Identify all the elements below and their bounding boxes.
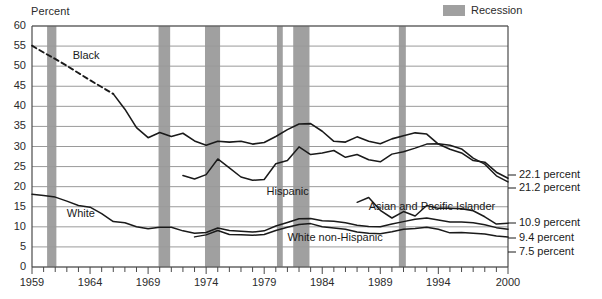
recession-swatch-icon bbox=[443, 5, 465, 16]
y-tick-label: 15 bbox=[2, 200, 26, 212]
series-label-white-non-hispanic: White non-Hispanic bbox=[287, 231, 382, 243]
series-label-hispanic: Hispanic bbox=[267, 185, 309, 197]
end-value-label-asian: 10.9 percent bbox=[519, 216, 580, 228]
y-tick-label: 20 bbox=[2, 180, 26, 192]
y-tick-label: 50 bbox=[2, 59, 26, 71]
x-tick-label: 1964 bbox=[68, 276, 112, 288]
x-tick-label: 1974 bbox=[184, 276, 228, 288]
y-tick-label: 40 bbox=[2, 99, 26, 111]
y-axis-title: Percent bbox=[31, 5, 70, 17]
y-tick-label: 30 bbox=[2, 140, 26, 152]
y-tick-label: 35 bbox=[2, 119, 26, 131]
y-tick-label: 0 bbox=[2, 260, 26, 272]
plot-area bbox=[0, 0, 602, 299]
x-tick-label: 1994 bbox=[416, 276, 460, 288]
legend: Recession bbox=[443, 4, 522, 16]
x-tick-label: 1989 bbox=[358, 276, 402, 288]
y-tick-label: 5 bbox=[2, 240, 26, 252]
legend-label-recession: Recession bbox=[471, 4, 522, 16]
y-tick-label: 45 bbox=[2, 79, 26, 91]
x-tick-label: 1959 bbox=[10, 276, 54, 288]
series-label-white: White bbox=[67, 207, 95, 219]
series-line-hispanic bbox=[183, 144, 508, 182]
x-tick-label: 2000 bbox=[486, 276, 530, 288]
series-label-black: Black bbox=[73, 49, 100, 61]
poverty-rate-line-chart: Percent Recession 0510152025303540455055… bbox=[0, 0, 602, 299]
x-tick-label: 1969 bbox=[126, 276, 170, 288]
gridlines bbox=[32, 26, 508, 267]
series-label-asian-and-pacific-islander: Asian and Pacific Islander bbox=[369, 200, 496, 212]
y-tick-label: 60 bbox=[2, 19, 26, 31]
x-tick-label: 1984 bbox=[300, 276, 344, 288]
end-value-label-white-non-hispanic: 7.5 percent bbox=[519, 245, 574, 257]
y-tick-label: 25 bbox=[2, 160, 26, 172]
end-value-label-black: 22.1 percent bbox=[519, 168, 580, 180]
y-tick-label: 55 bbox=[2, 39, 26, 51]
end-value-label-white: 9.4 percent bbox=[519, 231, 574, 243]
y-tick-label: 10 bbox=[2, 220, 26, 232]
end-value-label-hispanic: 21.2 percent bbox=[519, 181, 580, 193]
leader-lines bbox=[508, 175, 516, 252]
x-tick-label: 1979 bbox=[242, 276, 286, 288]
x-tick-marks bbox=[32, 267, 508, 274]
